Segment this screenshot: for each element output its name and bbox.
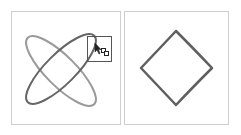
shape-builder-cursor-icon (95, 43, 109, 56)
figure-canvas (0, 0, 241, 135)
dark-ellipse (17, 25, 105, 113)
light-ellipse (17, 27, 105, 115)
diamond-result-shape (141, 31, 212, 105)
